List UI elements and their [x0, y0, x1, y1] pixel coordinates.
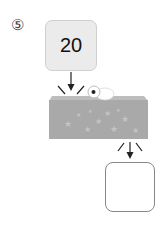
machine-box: ★ ★ ★ ★ ★ ★ ★ ★ ★ ★ [49, 96, 148, 139]
svg-text:★: ★ [104, 109, 111, 118]
svg-text:★: ★ [132, 126, 139, 135]
svg-text:★: ★ [110, 124, 118, 134]
svg-text:★: ★ [84, 125, 91, 134]
svg-text:★: ★ [121, 114, 129, 124]
svg-text:★: ★ [76, 112, 81, 118]
svg-text:★: ★ [64, 119, 72, 129]
machine-eye-icon [88, 86, 114, 100]
output-arrow-icon [127, 142, 134, 159]
input-arrow-icon [68, 72, 75, 91]
svg-text:★: ★ [95, 117, 102, 126]
output-answer-box[interactable] [105, 162, 155, 212]
